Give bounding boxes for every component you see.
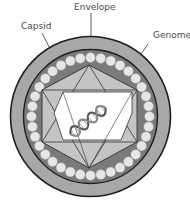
surface-protein-bead (30, 132, 40, 142)
surface-protein-bead (123, 157, 133, 167)
surface-protein-bead (75, 170, 85, 180)
surface-protein-bead (65, 167, 75, 177)
surface-protein-bead (86, 53, 96, 63)
surface-protein-bead (40, 149, 50, 159)
surface-protein-bead (131, 149, 141, 159)
surface-protein-bead (141, 91, 151, 101)
surface-protein-bead (137, 141, 147, 151)
surface-protein-bead (27, 101, 37, 111)
genome-label: Genome (153, 30, 190, 40)
surface-protein-bead (27, 112, 37, 122)
surface-protein-bead (115, 60, 125, 70)
surface-protein-bead (65, 56, 75, 66)
surface-protein-bead (48, 157, 58, 167)
envelope-label: Envelope (74, 2, 116, 12)
surface-protein-bead (144, 101, 154, 111)
surface-protein-bead (48, 66, 58, 76)
surface-protein-bead (145, 112, 155, 122)
surface-protein-bead (75, 53, 85, 63)
surface-protein-bead (96, 170, 106, 180)
capsid-label: Capsid (21, 21, 51, 31)
surface-protein-bead (141, 132, 151, 142)
surface-protein-bead (96, 53, 106, 63)
surface-protein-bead (106, 56, 116, 66)
surface-protein-bead (137, 82, 147, 92)
surface-protein-bead (144, 122, 154, 132)
surface-protein-bead (106, 167, 116, 177)
surface-protein-bead (56, 163, 66, 173)
surface-protein-bead (56, 60, 66, 70)
surface-protein-bead (30, 91, 40, 101)
surface-protein-bead (115, 163, 125, 173)
surface-protein-bead (86, 171, 96, 181)
surface-protein-bead (123, 66, 133, 76)
surface-protein-bead (40, 74, 50, 84)
virus-diagram: Envelope Capsid Genome (0, 0, 190, 201)
surface-protein-bead (131, 74, 141, 84)
surface-protein-bead (27, 122, 37, 132)
